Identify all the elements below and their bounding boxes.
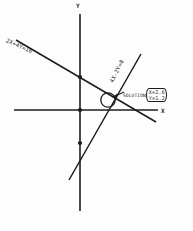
y-intercept-dot-line1 — [78, 75, 82, 79]
solution-y-value: Y=1.2 — [149, 96, 166, 101]
solution-callout: SOLUTION X=2.6 Y=1.2 — [123, 88, 167, 102]
solution-intersection-circle — [101, 93, 115, 107]
y-intercept-dot-line2 — [78, 141, 82, 145]
solution-x-value: X=2.6 — [149, 90, 166, 95]
graph-canvas — [0, 0, 193, 231]
linear-system-graph-figure: Y X 2X+4Y=10 4X-2Y=8 SOLUTION X=2.6 Y=1.… — [0, 0, 193, 231]
x-axis-label: X — [161, 108, 165, 114]
origin-dot — [78, 108, 82, 112]
y-axis-label: Y — [76, 3, 80, 9]
solution-brace: X=2.6 Y=1.2 — [146, 88, 167, 102]
solution-values: X=2.6 Y=1.2 — [149, 90, 166, 101]
solution-label: SOLUTION — [123, 93, 146, 98]
